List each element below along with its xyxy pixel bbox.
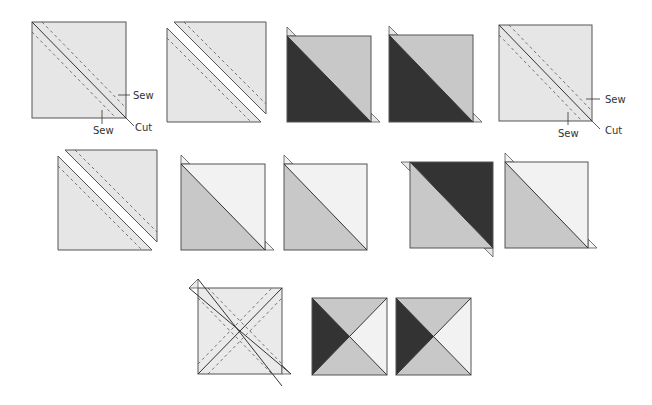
cut-square-2 (58, 150, 157, 250)
cut-square-1 (167, 22, 266, 122)
quilt-diagram: Sew Sew Cut Sew Sew Cut (0, 0, 652, 405)
hst-light-2 (284, 155, 367, 250)
marked-square-2: Sew Sew Cut (499, 25, 626, 139)
cut-label: Cut (135, 122, 152, 133)
sew-label-right: Sew (133, 90, 154, 101)
cut-label-2: Cut (605, 125, 622, 136)
x-marked-square (189, 279, 291, 386)
hourglass-1 (312, 298, 387, 375)
hst-dark-2 (389, 26, 482, 122)
hst-light-1 (181, 155, 274, 250)
sew-label-bottom-2: Sew (558, 128, 579, 139)
hourglass-2 (396, 298, 471, 375)
marked-square-1: Sew Sew Cut (32, 22, 154, 136)
hst-dark-1 (287, 27, 380, 122)
cut-leader (126, 118, 134, 126)
sew-label-right-2: Sew (605, 94, 626, 105)
hst-light-3 (505, 153, 597, 248)
hst-dark-mirror (401, 162, 493, 257)
sew-label-bottom: Sew (93, 125, 114, 136)
